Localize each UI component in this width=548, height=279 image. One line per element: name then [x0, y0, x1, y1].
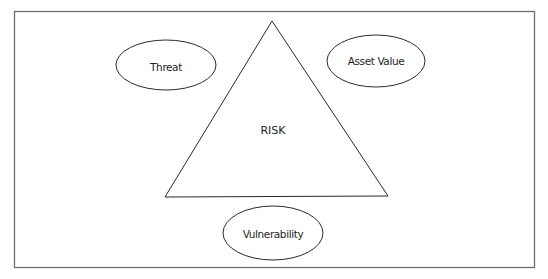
risk-label: RISK — [260, 124, 286, 137]
risk-diagram: RISK Threat Asset Value Vulnerability — [0, 0, 548, 279]
vulnerability-label: Vulnerability — [243, 228, 304, 240]
threat-label: Threat — [149, 61, 182, 73]
asset-value-label: Asset Value — [348, 55, 404, 67]
